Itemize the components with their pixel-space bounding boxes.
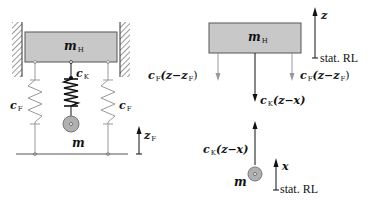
stat-rl-bottom-label: stat. RL (280, 183, 318, 195)
x-label: x (282, 161, 289, 172)
zF-coordinate-arrow (136, 126, 142, 154)
small-mass-label: m (72, 137, 85, 149)
force-arrow-center-up (253, 121, 258, 129)
stat-rl-top-label: stat. RL (320, 52, 358, 64)
left-spring (28, 61, 42, 156)
small-mass-ball-fbd (248, 167, 262, 181)
fbd-main-mass-label: mH (248, 31, 268, 45)
zF-label: zF (144, 130, 156, 143)
small-mass-ball (63, 116, 79, 132)
right-spring-label: cF (119, 100, 132, 113)
force-arrow-right (290, 73, 295, 81)
center-spring-label: cK (76, 68, 89, 81)
z-label: z (321, 10, 327, 21)
left-wall-hatch (12, 22, 22, 77)
force-center-down-label: cK(z−x) (260, 95, 305, 108)
force-left-label: cF(z−zF) (148, 70, 198, 83)
right-wall-hatch (120, 22, 130, 77)
force-center-up-label: cK(z−x) (203, 144, 248, 157)
z-coordinate-arrow (312, 7, 318, 58)
fbd-small-mass-label: m (234, 176, 247, 188)
main-mass-label: mH (64, 40, 84, 54)
diagram-graphics (0, 0, 380, 207)
x-coordinate-arrow (273, 158, 279, 190)
right-spring (101, 61, 115, 156)
two-mass-oscillator-diagram: mH cK cF cF m zF mH z stat. RL cF(z−zF) … (0, 0, 380, 207)
force-arrow-left (216, 73, 221, 81)
force-right-label: cF(z−zF) (300, 70, 350, 83)
left-spring-label: cF (10, 100, 23, 113)
force-arrow-center-down (253, 94, 258, 102)
